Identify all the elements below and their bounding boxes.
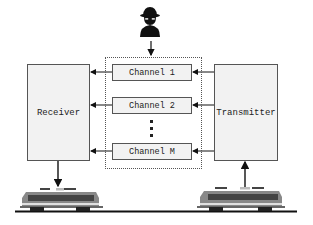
transmitter-label: Transmitter <box>216 108 275 118</box>
receiver-label: Receiver <box>37 108 80 118</box>
channel-2-label: Channel 2 <box>129 101 175 111</box>
channel-1-label: Channel 1 <box>129 68 175 78</box>
spy-icon <box>140 7 160 37</box>
channel-m-label: Channel M <box>129 147 175 157</box>
channel-1-box: Channel 1 <box>112 64 192 81</box>
locomotive-icon-left <box>20 188 103 211</box>
transmitter-box: Transmitter <box>214 64 278 161</box>
locomotive-icon-right <box>197 187 285 211</box>
channel-2-box: Channel 2 <box>112 97 192 114</box>
channel-m-box: Channel M <box>112 143 192 160</box>
receiver-box: Receiver <box>27 64 90 161</box>
channel-diagram: Receiver Transmitter Channel 1 Channel 2… <box>0 0 313 225</box>
